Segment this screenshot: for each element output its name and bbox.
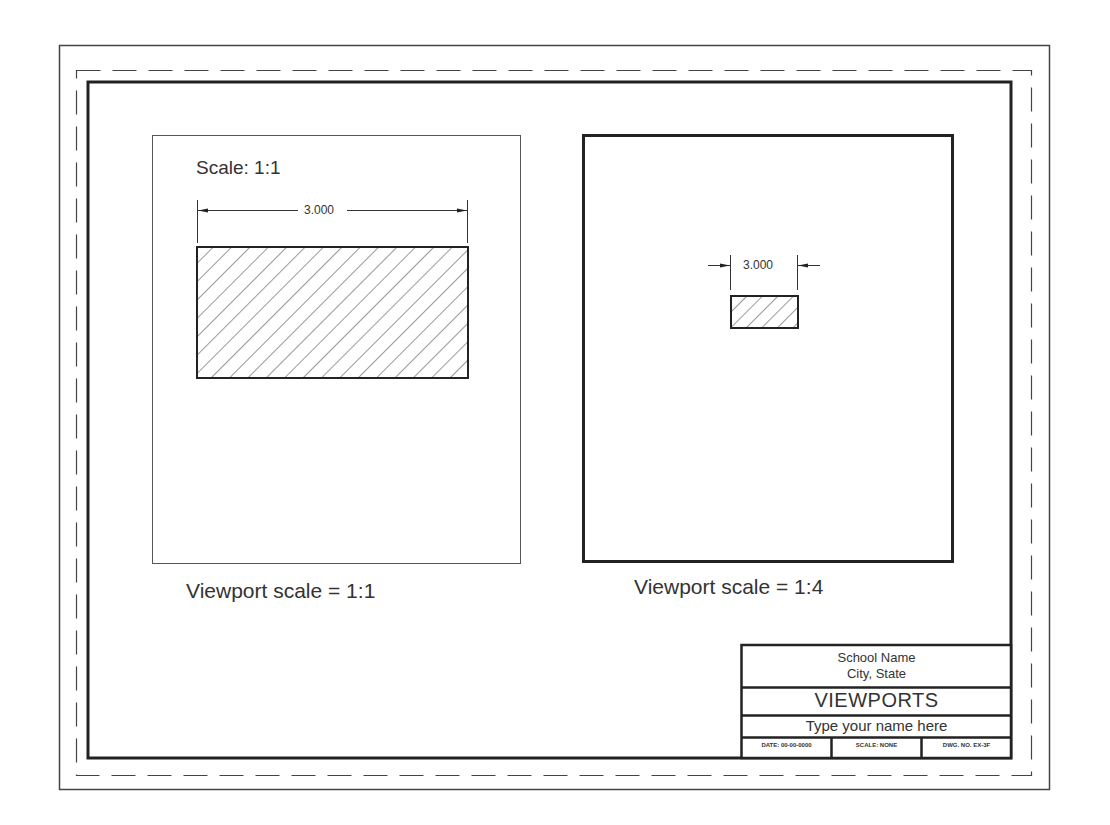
left-viewport-caption: Viewport scale = 1:1 bbox=[186, 579, 375, 603]
left-dimension-value: 3.000 bbox=[302, 203, 336, 217]
left-scale-note: Scale: 1:1 bbox=[196, 157, 281, 179]
left-hatched-rectangle[interactable] bbox=[197, 247, 468, 378]
title-block-name-field[interactable]: Type your name here bbox=[742, 717, 1011, 734]
title-block-dwg-no[interactable]: DWG. NO. EX-3F bbox=[922, 742, 1011, 748]
title-block-location[interactable]: City, State bbox=[742, 666, 1011, 681]
title-block-school[interactable]: School Name bbox=[742, 650, 1011, 665]
right-dimension-value: 3.000 bbox=[743, 258, 773, 272]
right-viewport-frame[interactable] bbox=[584, 136, 953, 562]
title-block-title[interactable]: VIEWPORTS bbox=[742, 689, 1011, 712]
title-block-scale[interactable]: SCALE: NONE bbox=[832, 742, 921, 748]
right-hatched-rectangle[interactable] bbox=[731, 296, 798, 328]
title-block-date[interactable]: DATE: 00-00-0000 bbox=[742, 742, 831, 748]
right-viewport-caption: Viewport scale = 1:4 bbox=[634, 575, 823, 599]
